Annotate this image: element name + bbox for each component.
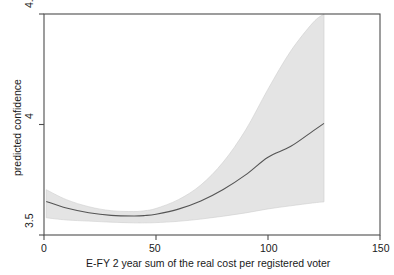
y-tick-label-3-5: 3.5 [24,213,35,228]
x-tick-label-0: 0 [41,243,47,254]
x-tick-label-100: 100 [260,243,278,254]
y-axis-title: predicted confidence [12,79,23,176]
confidence-band-group [46,14,324,223]
confidence-band [46,14,324,223]
chart-container: 4.5 4 3.5 predicted confidence 0 50 100 … [0,0,394,275]
x-tick-label-50: 50 [149,243,161,254]
chart-plot-svg [0,0,394,275]
x-axis-title: E-FY 2 year sum of the real cost per reg… [86,258,330,269]
y-tick-label-4: 4 [24,113,35,119]
y-tick-label-4-5: 4.5 [24,0,35,8]
x-tick-label-150: 150 [372,243,390,254]
